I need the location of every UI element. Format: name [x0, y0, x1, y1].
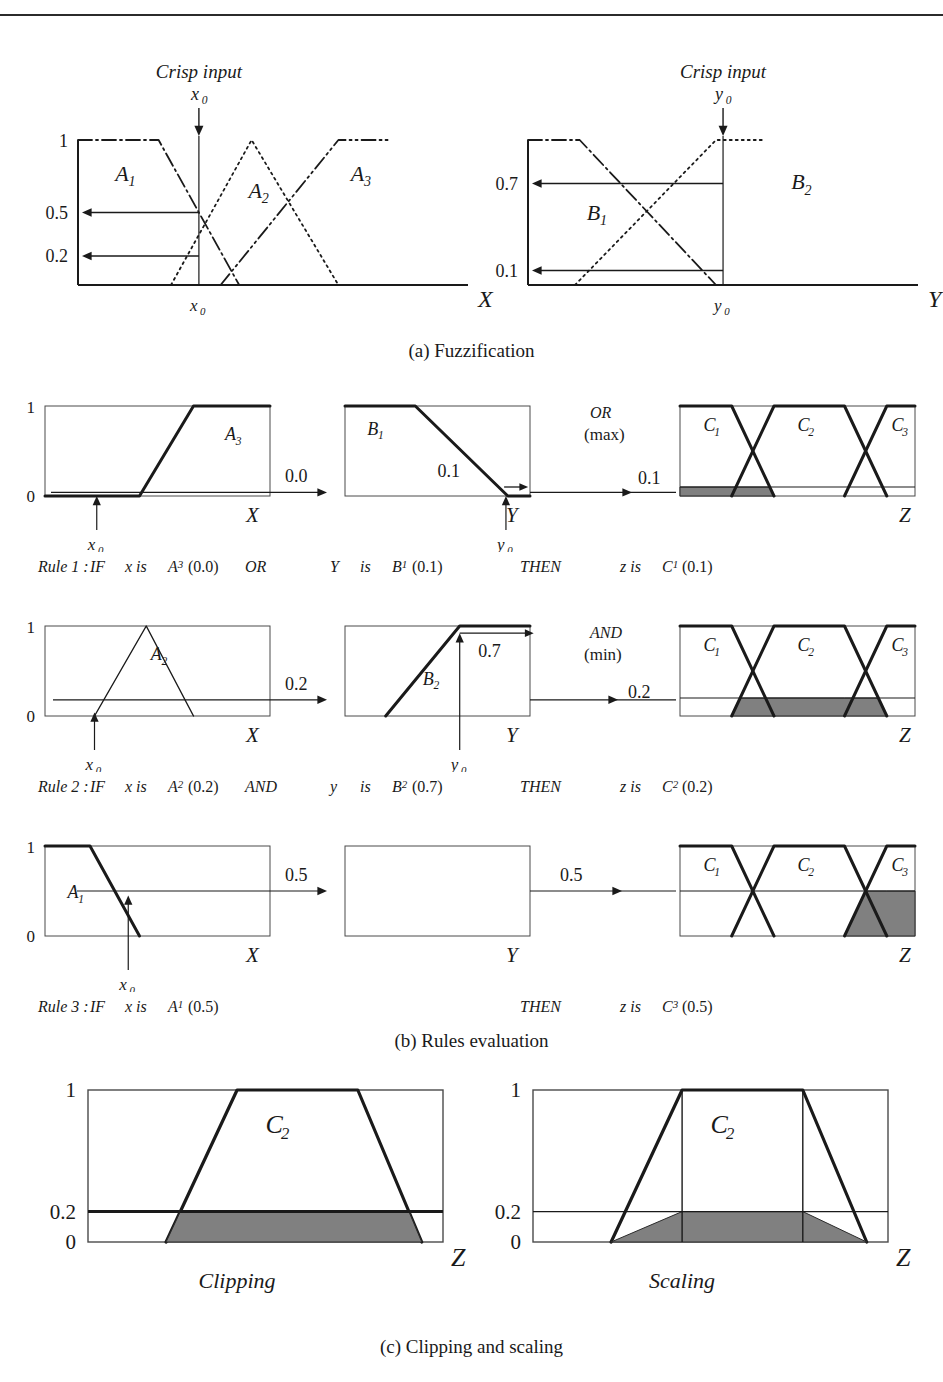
section-clip-scale: 10.20C2ZClipping10.20C2ZScaling	[0, 1068, 943, 1318]
fuzzification-y-panel-x-tick-label-glyph: y	[712, 296, 722, 315]
caption-c: (c) Clipping and scaling	[0, 1336, 943, 1358]
scaling-panel-y-tick-1: 0.2	[495, 1200, 521, 1224]
rule2-x-frame	[45, 626, 270, 716]
rule1-text-part-3: A3	[168, 558, 178, 576]
rule3-z-set-label-1-subscript: 2	[808, 866, 814, 878]
clipping-panel-set-label: C2	[266, 1110, 290, 1143]
rule2-connector-1: 0.2	[53, 674, 327, 704]
rule2-x-curve	[95, 626, 194, 716]
fuzzification-x-panel-x-tick-label: x0	[189, 296, 206, 317]
section-rule3: 10XA1x00.5Y0.5ZC1C2C3	[0, 832, 943, 992]
fuzzification-x-panel-readout-arrow-0.5	[82, 208, 92, 216]
fuzzification-x-panel-y-tick-0.2: 0.2	[46, 246, 69, 266]
rule3-text-part-2: x is	[125, 998, 147, 1016]
fuzzification-y-panel-x-tick-label-subscript: 0	[724, 305, 730, 317]
fuzzification-x-panel-set-label-2-subscript: 3	[363, 173, 371, 189]
fuzzification-y-panel-set-label-0-subscript: 1	[600, 212, 607, 228]
rule1-z-curve-C1	[680, 406, 774, 496]
clipping-panel-set-label-subscript: 2	[281, 1124, 289, 1143]
fuzzification-x-panel-crisp-arrow-head	[194, 126, 203, 136]
scaling-panel-title: Scaling	[649, 1268, 715, 1293]
rule1-text-part-11: z is	[620, 558, 641, 576]
rule1-text-part-5: OR	[245, 558, 266, 576]
scaling-panel: 10.20C2ZScaling	[495, 1078, 911, 1293]
rule1-text-part-7: is	[360, 558, 371, 576]
rule3-svg: 10XA1x00.5Y0.5ZC1C2C3	[0, 832, 943, 992]
clipping-panel-y-tick-0: 1	[66, 1078, 77, 1102]
rule3-x-set-label-subscript: 1	[78, 893, 84, 905]
rule1-y0-label-subscript: 0	[507, 544, 513, 552]
rule1-x-frame	[45, 406, 270, 496]
fuzzification-svg: Crisp inputx0Xx00.50.21A1A2A3Crisp input…	[0, 30, 943, 330]
rule1-y-set-label-glyph: B	[367, 419, 378, 439]
rule1-svg: 10XA3x00.0YB1y00.10.1OR(max)ZC1C2C3	[0, 392, 943, 552]
rule2-x-set-label-subscript: 2	[162, 655, 168, 667]
section-fuzzification: Crisp inputx0Xx00.50.21A1A2A3Crisp input…	[0, 30, 943, 330]
fuzzification-y-panel-set-label-1-subscript: 2	[804, 182, 811, 198]
rule1-y-panel: YB1y00.1	[345, 406, 530, 552]
rule1-z-axis-label: Z	[899, 503, 911, 527]
rule2-y0-label-glyph: y	[449, 755, 459, 772]
rule2-x0-label-glyph: x	[85, 755, 94, 772]
rule1-antecedent-value: 0.0	[285, 466, 308, 486]
rule3-x-tick-0: 0	[27, 927, 36, 946]
rule3-y-frame	[345, 846, 530, 936]
rule1-result-value: 0.1	[638, 468, 661, 488]
fuzzification-y-panel-x-tick-label: y0	[712, 296, 730, 317]
rule1-text-part-2: x is	[125, 558, 147, 576]
caption-b: (b) Rules evaluation	[0, 1030, 943, 1052]
rule1-x-curve	[45, 406, 270, 496]
rule3-text-part-10: THEN	[520, 998, 561, 1016]
fuzzification-y-panel-crisp-value-label: y0	[713, 84, 732, 106]
rule1-y0-label: y0	[495, 535, 513, 552]
rule1-connector-1-arrow	[317, 488, 327, 496]
fuzzification-x-panel-set-label-0: A1	[113, 161, 135, 189]
rule3-z-axis-label: Z	[899, 943, 911, 967]
rule2-connector-2-arrow	[608, 696, 618, 704]
rule1-text-part-8: B1	[392, 558, 402, 576]
rule2-y-frame	[345, 626, 530, 716]
rule3-z-set-label-0-subscript: 1	[714, 866, 720, 878]
rule2-antecedent-value: 0.2	[285, 674, 308, 694]
rule2-y-panel: YB2y00.7	[345, 626, 534, 772]
rule2-z-set-label-2-subscript: 3	[901, 646, 908, 658]
rule2-operator-sub: (min)	[584, 645, 622, 664]
fuzzification-y-panel-curve-B1	[528, 140, 716, 285]
rule2-y-set-label-glyph: B	[423, 669, 434, 689]
top-horizontal-rule	[0, 14, 943, 16]
figure-page: Crisp inputx0Xx00.50.21A1A2A3Crisp input…	[0, 0, 943, 1382]
rule2-y0-arrow-head	[456, 633, 464, 642]
rule3-text-part-3: A1	[168, 998, 178, 1016]
rule1-text-part-0: Rule 1 :	[38, 558, 89, 576]
rule2-text-part-2: x is	[125, 778, 147, 796]
rule1-y-set-label-subscript: 1	[378, 429, 384, 441]
rule2-x-tick-0: 0	[27, 707, 36, 726]
rule2-result-value: 0.2	[628, 682, 651, 702]
rule2-x-axis-label: X	[245, 723, 260, 747]
scaling-panel-set-label: C2	[711, 1110, 735, 1143]
fuzzification-x-panel-crisp-input-label: Crisp input	[156, 61, 243, 82]
fuzzification-x-panel-x-tick-label-glyph: x	[189, 296, 198, 315]
scaling-panel-shaded-region	[611, 1212, 867, 1242]
rule1-x-panel: 10XA3x0	[27, 398, 271, 552]
rule3-x0-label-glyph: x	[118, 975, 127, 992]
rule3-z-panel: ZC1C2C3	[680, 846, 915, 967]
rule2-y-set-label-subscript: 2	[434, 679, 440, 691]
rule3-result-value: 0.5	[560, 865, 583, 885]
rule3-z-set-label-1: C2	[798, 855, 815, 877]
rule1-x0-label-subscript: 0	[98, 544, 104, 552]
rule3-z-set-label-0: C1	[704, 855, 721, 877]
rule2-z-panel: ZC1C2C3	[680, 626, 915, 747]
rule1-x-set-label: A3	[224, 424, 242, 446]
section-rule1: 10XA3x00.0YB1y00.10.1OR(max)ZC1C2C3	[0, 392, 943, 552]
rule1-y-set-label: B1	[367, 419, 384, 441]
rule2-text-part-3: A2	[168, 778, 178, 796]
rule3-text-part-0: Rule 3 :	[38, 998, 89, 1016]
clipping-panel-title: Clipping	[199, 1268, 276, 1293]
fuzzification-y-panel-readout-arrow-0.7	[532, 179, 542, 187]
fuzzification-x-panel-x-tick-label-subscript: 0	[200, 305, 206, 317]
rule3-x0-label-subscript: 0	[129, 984, 135, 992]
scaling-panel-axis-label: Z	[896, 1243, 911, 1272]
rule1-z-panel: ZC1C2C3	[680, 406, 915, 527]
rule2-x-panel: 10XA2x0	[27, 618, 271, 772]
